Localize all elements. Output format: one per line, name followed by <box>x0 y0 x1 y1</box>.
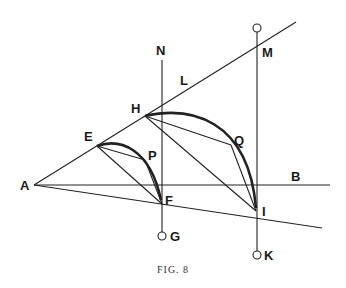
label-q: Q <box>234 133 244 148</box>
label-m: M <box>262 45 273 60</box>
label-b: B <box>291 169 300 184</box>
label-n: N <box>156 43 165 58</box>
label-p: P <box>148 148 157 163</box>
label-f: F <box>165 193 173 208</box>
chord-pf <box>145 160 162 204</box>
ring-m <box>253 24 261 32</box>
label-i: I <box>262 204 266 219</box>
ring-g <box>158 232 166 240</box>
label-h: H <box>131 101 140 116</box>
geometric-diagram: A B E F G H I K L M N P Q FIG. 8 <box>0 0 346 288</box>
label-l: L <box>180 73 188 88</box>
figure-caption: FIG. 8 <box>157 264 189 275</box>
label-a: A <box>20 178 30 193</box>
label-e: E <box>84 129 93 144</box>
ring-k <box>253 251 261 259</box>
chord-hq <box>145 116 231 145</box>
label-g: G <box>170 229 180 244</box>
label-k: K <box>264 248 274 263</box>
line-a-lower <box>34 185 322 228</box>
